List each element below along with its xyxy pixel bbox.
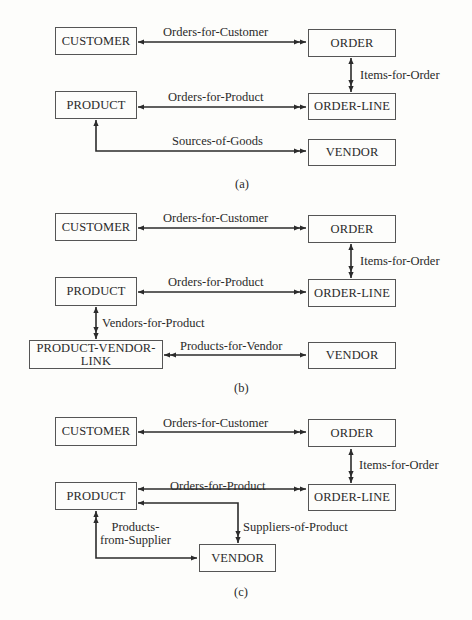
relationship-label: Orders-for-Customer (163, 212, 268, 225)
entity-vendor: VENDOR (308, 139, 396, 166)
relationship-arrow (138, 225, 306, 230)
entity-customer: CUSTOMER (55, 27, 137, 55)
relationship-label: Suppliers-of-Product (243, 521, 348, 534)
relationship-arrow (348, 58, 353, 92)
entity-customer: CUSTOMER (55, 213, 137, 241)
relationship-label: Vendors-for-Product (102, 317, 205, 330)
relationship-arrow (348, 449, 353, 483)
figure-caption: (c) (234, 585, 248, 600)
entity-order-line: ORDER-LINE (308, 93, 396, 120)
relationship-label: Orders-for-Product (168, 276, 264, 289)
entity-product: PRODUCT (55, 277, 137, 306)
entity-product: PRODUCT (55, 91, 137, 119)
entity-product: PRODUCT (55, 482, 137, 510)
relationship-arrow (348, 244, 353, 278)
relationship-label: Orders-for-Product (168, 91, 264, 104)
relationship-label: Items-for-Order (360, 69, 440, 82)
relationship-label: Sources-of-Goods (172, 135, 263, 148)
relationship-label: Orders-for-Product (170, 480, 266, 493)
entity-order-line: ORDER-LINE (308, 484, 396, 511)
entity-vendor: VENDOR (308, 342, 396, 369)
entity-customer: CUSTOMER (55, 417, 137, 446)
entity-order: ORDER (308, 215, 396, 243)
relationship-arrow (93, 307, 98, 339)
relationship-label: Orders-for-Customer (163, 417, 268, 430)
figure-caption: (a) (235, 177, 249, 192)
relationship-label: Products- from-Supplier (100, 521, 171, 547)
relationship-arrow (138, 104, 306, 109)
relationship-arrow (138, 289, 306, 294)
relationship-arrow (138, 429, 306, 434)
relationship-label: Orders-for-Customer (163, 26, 268, 39)
relationship-label: Items-for-Order (360, 255, 440, 268)
entity-order-line: ORDER-LINE (308, 279, 396, 307)
entity-product-vendor-link: PRODUCT-VENDOR- LINK (29, 340, 163, 369)
relationship-arrow (164, 352, 306, 357)
entity-order: ORDER (308, 29, 396, 57)
relationship-label: Products-for-Vendor (180, 340, 283, 353)
data-model-figure: CUSTOMERORDERPRODUCTORDER-LINEVENDOROrde… (0, 0, 472, 620)
relationship-arrow (138, 39, 306, 44)
entity-order: ORDER (308, 419, 396, 447)
relationship-label: Items-for-Order (359, 459, 439, 472)
entity-vendor: VENDOR (199, 544, 276, 572)
figure-caption: (b) (234, 381, 249, 396)
